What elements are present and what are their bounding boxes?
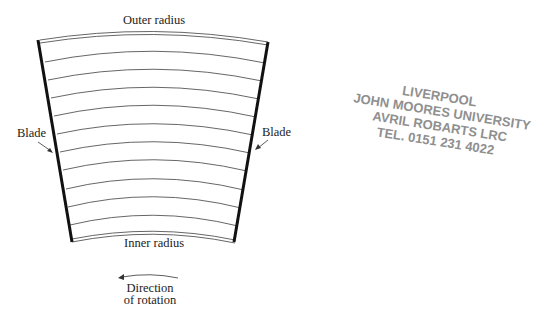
- blade-passage-diagram: Outer radius Inner radius Blade Blade Di…: [0, 0, 559, 314]
- arrow-icon: [255, 140, 268, 150]
- streamline-arc: [51, 87, 259, 99]
- streamline-arc: [45, 51, 265, 63]
- blade-left-label: Blade: [17, 126, 47, 140]
- outer-radius-arc-2: [40, 34, 268, 45]
- rotation-arrow-icon: [118, 274, 178, 280]
- streamline-arc: [54, 105, 256, 117]
- outer-radius-label: Outer radius: [123, 13, 185, 27]
- streamline-arc: [60, 142, 250, 153]
- streamline-arc: [48, 69, 262, 81]
- streamline-arc: [68, 197, 241, 208]
- arrow-icon: [38, 142, 53, 153]
- left-blade: [38, 40, 72, 242]
- arc-lines: [40, 31, 268, 243]
- streamline-arc: [66, 179, 244, 190]
- direction-label-line2: of rotation: [124, 293, 177, 307]
- streamline-arc: [70, 215, 238, 226]
- streamline-arc: [57, 124, 253, 135]
- blade-right-label: Blade: [262, 125, 292, 139]
- library-stamp: LIVERPOOL JOHN MOORES UNIVERSITY AVRIL R…: [348, 75, 535, 162]
- streamline-arc: [63, 160, 247, 171]
- right-blade: [234, 42, 268, 242]
- inner-radius-label: Inner radius: [124, 236, 184, 250]
- outer-radius-arc-1: [40, 31, 268, 42]
